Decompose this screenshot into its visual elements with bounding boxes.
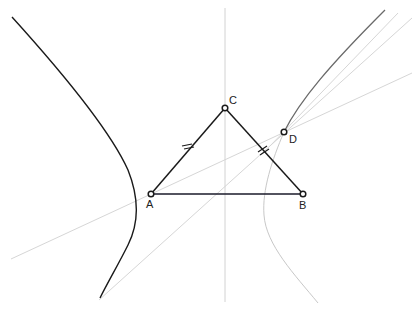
geometry-diagram: A B C D [0,0,419,313]
point-A[interactable] [148,191,154,197]
left-branch-curve [12,17,136,298]
label-D: D [289,133,297,145]
point-D[interactable] [281,129,287,135]
point-C[interactable] [222,105,228,111]
point-B[interactable] [300,191,306,197]
line-through-D-steep [270,13,398,146]
label-B: B [299,199,306,211]
segment-CB [225,108,303,194]
right-upper-branch-curve [284,10,385,132]
label-A: A [146,198,154,210]
segment-AC [151,108,225,194]
label-C: C [229,94,237,106]
line-through-D-lower [99,18,412,300]
line-through-A-and-D [11,73,412,259]
right-lower-branch-curve [264,132,318,303]
